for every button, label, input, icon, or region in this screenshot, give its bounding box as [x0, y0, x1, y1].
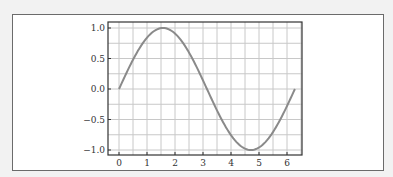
sine-chart: 0123456 1.00.50.0−0.5−1.0 [0, 0, 393, 177]
x-tick-label: 0 [116, 158, 122, 168]
x-tick-label: 2 [172, 158, 178, 168]
x-tick-label: 1 [144, 158, 150, 168]
grid-lines [108, 22, 302, 155]
x-tick-label: 6 [284, 158, 290, 168]
y-tick-label: 0.0 [91, 84, 106, 94]
x-axis-ticks: 0123456 [116, 152, 290, 168]
x-tick-label: 5 [256, 158, 262, 168]
y-tick-label: −0.5 [83, 115, 105, 125]
y-axis-ticks: 1.00.50.0−0.5−1.0 [83, 23, 111, 155]
y-tick-label: −1.0 [83, 145, 105, 155]
x-tick-label: 3 [200, 158, 206, 168]
y-tick-label: 1.0 [91, 23, 106, 33]
y-tick-label: 0.5 [91, 54, 106, 64]
x-tick-label: 4 [228, 158, 234, 168]
